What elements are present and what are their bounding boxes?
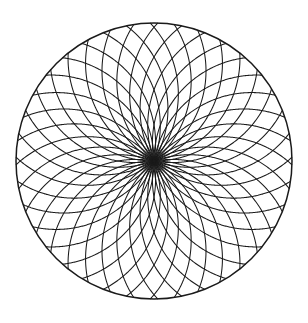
mandala-figure	[0, 0, 308, 323]
figure-container	[0, 0, 308, 323]
center-convergence-point	[152, 159, 155, 162]
